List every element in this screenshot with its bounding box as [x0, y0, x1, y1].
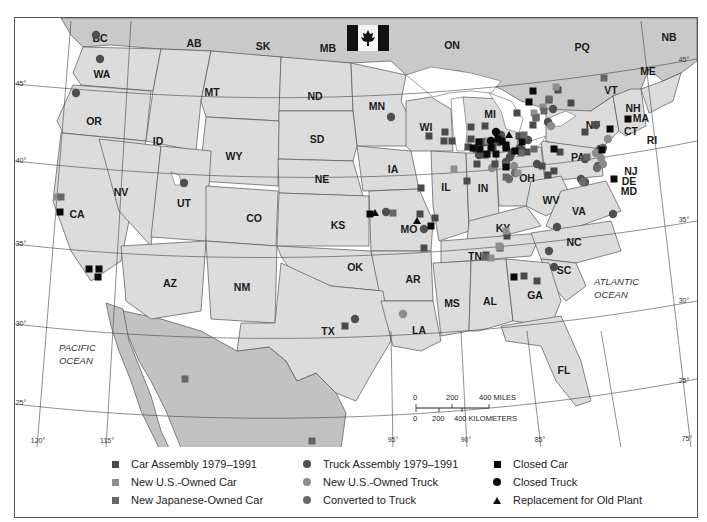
state-label-ms: MS [444, 297, 460, 309]
scale-km-0: 0 [413, 414, 417, 423]
car-assembly-marker [514, 110, 521, 117]
scale-km-200: 200 [432, 414, 445, 423]
state-label-mi: MI [484, 108, 496, 120]
truck-assembly-marker [553, 223, 561, 231]
state-label-tn: TN [468, 250, 482, 262]
state-label-ut: UT [177, 197, 192, 209]
state-label-ri: RI [647, 134, 658, 146]
square-marker-icon [489, 461, 505, 468]
closed-car-marker [551, 146, 558, 153]
new-us-truck-marker [604, 135, 612, 143]
state-label-va: VA [572, 205, 586, 217]
new-japanese-car-marker [309, 438, 316, 445]
square-marker-icon [107, 497, 123, 504]
state-label-nv: NV [114, 186, 129, 198]
triangle-marker-icon [489, 497, 505, 504]
state-label-sc: SC [557, 264, 572, 276]
latitude-tick: 45° [679, 56, 690, 63]
car-assembly-marker [417, 211, 424, 218]
state-label-id: ID [153, 135, 164, 147]
car-assembly-marker [530, 122, 537, 129]
square-marker-icon [107, 461, 123, 468]
closed-car-marker [530, 88, 537, 95]
circle-marker-icon [489, 478, 505, 486]
new-japanese-car-marker [533, 115, 540, 122]
province-label-mb: MB [320, 42, 337, 54]
state-label-il: IL [441, 181, 451, 193]
state-label-wy: WY [226, 150, 243, 162]
closed-car-marker [625, 116, 632, 123]
latitude-tick: 35° [679, 216, 690, 223]
car-assembly-marker [539, 163, 546, 170]
state-label-ar: AR [405, 273, 421, 285]
state-label-md: MD [621, 185, 638, 197]
state-label-az: AZ [163, 277, 178, 289]
us-auto-plants-map: BCABSKMBONPQNBME WAORIDMTNDMNSDWYWIMINYV… [15, 18, 697, 448]
converted-truck-marker [593, 164, 601, 172]
new-japanese-car-marker [546, 96, 553, 103]
new-us-truck-marker [547, 122, 555, 130]
state-label-ia: IA [388, 163, 399, 175]
truck-assembly-marker [180, 179, 188, 187]
car-assembly-marker [449, 138, 456, 145]
legend-item: New U.S.-Owned Truck [299, 473, 458, 491]
state-label-mo: MO [401, 223, 418, 235]
legend-item: Converted to Truck [299, 491, 458, 509]
legend: Car Assembly 1979–1991New U.S.-Owned Car… [14, 447, 698, 518]
car-assembly-marker [474, 161, 481, 168]
state-label-ma: MA [633, 112, 650, 124]
legend-label: New Japanese-Owned Car [131, 494, 263, 506]
latitude-tick: 25° [16, 399, 27, 406]
closed-car-marker [476, 139, 483, 146]
province-label-sk: SK [256, 40, 271, 52]
state-label-in: IN [478, 182, 489, 194]
closed-car-marker [488, 145, 495, 152]
legend-label: Car Assembly 1979–1991 [131, 458, 257, 470]
new-japanese-car-marker [601, 75, 608, 82]
longitude-tick: 120° [31, 437, 46, 444]
new-us-car-marker [497, 244, 504, 251]
car-assembly-marker [468, 124, 475, 131]
closed-car-marker [95, 274, 102, 281]
new-japanese-car-marker [182, 376, 189, 383]
state-label-wa: WA [94, 68, 111, 80]
new-us-car-marker [488, 255, 495, 262]
legend-item: New Japanese-Owned Car [107, 491, 263, 509]
legend-label: Truck Assembly 1979–1991 [323, 458, 458, 470]
car-assembly-marker [557, 149, 564, 156]
longitude-tick: 115° [100, 437, 114, 444]
latitude-tick: 30° [679, 297, 690, 304]
legend-label: Replacement for Old Plant [513, 494, 642, 506]
closed-car-marker [96, 266, 103, 273]
legend-label: Converted to Truck [323, 494, 416, 506]
state-label-ne: NE [315, 173, 330, 185]
state-label-co: CO [246, 212, 262, 224]
state-label-mn: MN [369, 100, 385, 112]
car-assembly-marker [421, 245, 428, 252]
closed-car-marker [495, 136, 502, 143]
car-assembly-marker [521, 273, 528, 280]
scale-miles-200: 200 [446, 393, 459, 402]
closed-car-marker [57, 209, 64, 216]
province-label-nb: NB [661, 31, 677, 43]
closed-truck-marker [492, 128, 500, 136]
new-japanese-car-marker [584, 154, 591, 161]
state-label-nm: NM [234, 281, 251, 293]
truck-assembly-marker [351, 315, 359, 323]
closed-car-marker [484, 151, 491, 158]
province-label-ab: AB [186, 37, 202, 49]
new-japanese-car-marker [541, 108, 548, 115]
scale-bar: 0 200 400 MILES 0 200 400 KILOMETERS [413, 393, 517, 423]
longitude-tick: 95° [388, 436, 399, 443]
car-assembly-marker [568, 100, 575, 107]
truck-assembly-marker [96, 55, 104, 63]
car-assembly-marker [492, 161, 499, 168]
new-us-car-marker [503, 228, 510, 235]
closed-car-marker [519, 139, 526, 146]
closed-truck-marker [487, 137, 495, 145]
state-label-sd: SD [310, 133, 325, 145]
scale-km-400: 400 KILOMETERS [454, 414, 517, 423]
closed-car-marker [512, 148, 519, 155]
legend-column-car: Car Assembly 1979–1991New U.S.-Owned Car… [107, 455, 263, 509]
new-japanese-car-marker [58, 194, 65, 201]
